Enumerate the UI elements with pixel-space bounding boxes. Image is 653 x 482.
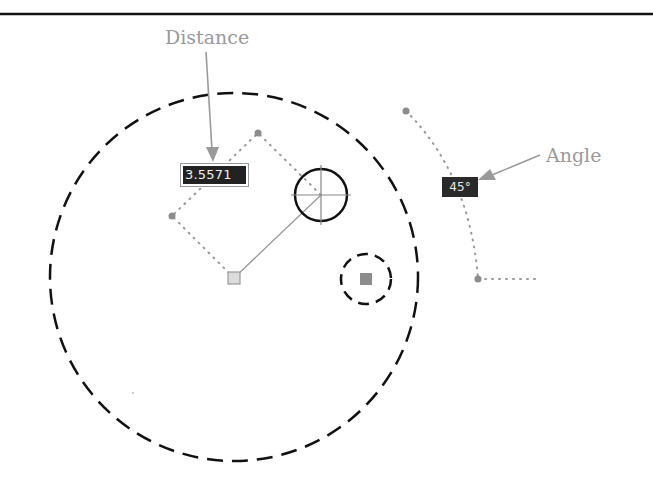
angle-input-field[interactable]: 45° [442,177,478,197]
distance-input-value: 3.5571 [183,166,246,184]
angle-arrow-icon [478,155,540,180]
dotted-dimension-path [172,133,321,278]
angle-callout-label: Angle [546,146,601,165]
drawing-canvas[interactable] [0,0,653,482]
stray-point [132,392,134,394]
rubberband-line [234,195,321,278]
arc-grip-dot-bottom[interactable] [475,276,482,283]
distance-callout-label: Distance [165,28,249,47]
center-grip-square[interactable] [228,272,240,284]
distance-input-field[interactable]: 3.5571 [180,163,249,187]
hot-grip-square[interactable] [360,273,372,285]
grip-dot-left[interactable] [169,213,176,220]
grip-dot-top[interactable] [255,130,262,137]
arc-grip-dot-top[interactable] [403,108,410,115]
distance-arrow-icon [206,52,219,162]
